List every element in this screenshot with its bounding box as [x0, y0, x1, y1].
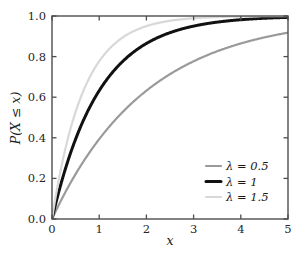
- legend-label-2: λ = 1.5: [225, 190, 269, 204]
- legend-label-1: λ = 1: [225, 175, 258, 189]
- chart-figure: 012345 0.00.20.40.60.81.0 x P(X ≤ x) λ =…: [0, 0, 303, 257]
- y-axis-label-group: P(X ≤ x): [8, 92, 23, 146]
- x-tick-label: 2: [143, 222, 150, 236]
- y-tick-label: 0.8: [28, 50, 46, 64]
- y-tick-label: 0.6: [28, 90, 46, 104]
- y-tick-label: 0.4: [28, 131, 46, 145]
- exponential-cdf-chart: 012345 0.00.20.40.60.81.0 x P(X ≤ x) λ =…: [0, 0, 303, 257]
- y-tick-label: 0.2: [28, 171, 46, 185]
- x-tick-label: 1: [96, 222, 103, 236]
- y-tick-label: 1.0: [28, 9, 46, 23]
- x-tick-label: 5: [284, 222, 291, 236]
- x-tick-label: 4: [237, 222, 244, 236]
- x-axis-label: x: [166, 233, 173, 248]
- x-tick-label: 3: [190, 222, 197, 236]
- y-tick-label: 0.0: [28, 212, 46, 226]
- x-tick-label: 0: [48, 222, 55, 236]
- y-axis-label: P(X ≤ x): [8, 92, 23, 146]
- legend-label-0: λ = 0.5: [225, 159, 269, 173]
